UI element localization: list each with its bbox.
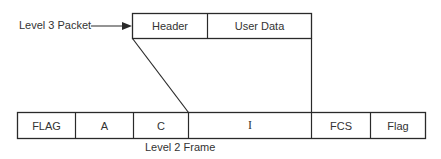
expansion-line-left [133, 39, 189, 113]
frame-field-flag-start: FLAG [18, 113, 75, 138]
arrow-head-icon [122, 22, 132, 30]
packet-field-header: Header [133, 14, 207, 38]
frame-field-address: A [76, 113, 133, 138]
frame-field-control: C [134, 113, 188, 138]
packet-field-user-data: User Data [208, 14, 311, 38]
frame-field-information: I [189, 113, 311, 138]
frame-label: Level 2 Frame [145, 141, 215, 153]
frame-field-flag-end: Flag [371, 113, 425, 138]
packet-label: Level 3 Packet [19, 19, 91, 31]
frame-field-fcs: FCS [312, 113, 370, 138]
